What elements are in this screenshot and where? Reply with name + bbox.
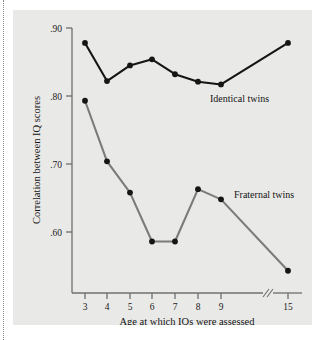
data-point[interactable]: [285, 268, 291, 274]
data-point[interactable]: [149, 239, 155, 245]
data-point[interactable]: [218, 196, 224, 202]
data-point[interactable]: [172, 71, 178, 77]
data-point[interactable]: [127, 63, 133, 69]
data-point[interactable]: [127, 190, 133, 196]
data-point[interactable]: [172, 239, 178, 245]
series-label-identical-twins: Identical twins: [210, 93, 269, 104]
data-point[interactable]: [82, 98, 88, 104]
x-axis-ticks: [85, 293, 288, 299]
y-tick-label-3: .60: [50, 228, 62, 238]
x-tick-label-0: 3: [83, 302, 88, 312]
y-axis-ticks: [66, 28, 72, 232]
data-point[interactable]: [149, 56, 155, 62]
x-tick-label-2: 5: [128, 302, 133, 312]
x-axis-title: Age at which IQs were assessed: [120, 316, 256, 325]
series-line-identical-twins: [85, 43, 288, 84]
x-tick-label-5: 8: [196, 302, 201, 312]
data-point[interactable]: [195, 186, 201, 192]
data-point[interactable]: [104, 158, 110, 164]
y-axis-title: Correlation between IQ scores: [31, 96, 42, 224]
series-label-fraternal-twins: Fraternal twins: [234, 189, 294, 200]
x-tick-label-7: 15: [283, 302, 293, 312]
data-point[interactable]: [195, 79, 201, 85]
data-point[interactable]: [285, 40, 291, 46]
data-point[interactable]: [82, 40, 88, 46]
chart-panel: .90 .80 .70 .60 3 4 5 6 7 8 9 15: [13, 10, 312, 325]
line-chart: .90 .80 .70 .60 3 4 5 6 7 8 9 15: [13, 10, 312, 325]
x-tick-label-1: 4: [105, 302, 110, 312]
y-tick-label-2: .70: [50, 160, 62, 170]
x-tick-label-6: 9: [219, 302, 224, 312]
data-point[interactable]: [104, 78, 110, 84]
data-point[interactable]: [218, 82, 224, 88]
y-tick-label-0: .90: [50, 24, 62, 34]
x-tick-label-3: 6: [150, 302, 155, 312]
page-binding-dotted-rule: [3, 0, 4, 340]
series-line-fraternal-twins: [85, 101, 288, 271]
x-tick-label-4: 7: [173, 302, 178, 312]
y-tick-label-1: .80: [50, 92, 62, 102]
figure-root: .90 .80 .70 .60 3 4 5 6 7 8 9 15: [0, 0, 320, 340]
series-layer: [82, 40, 291, 274]
